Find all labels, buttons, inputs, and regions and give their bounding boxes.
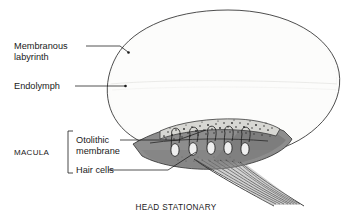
- label-macula: MACULA: [14, 148, 50, 157]
- macula-diagram: Membranous labyrinth Endolymph MACULA Ot…: [0, 0, 352, 220]
- label-membranous-labyrinth-line1: Membranous: [14, 41, 68, 51]
- label-hair-cells: Hair cells: [76, 165, 114, 175]
- leader-dot-endolymph: [124, 85, 127, 88]
- label-membranous-labyrinth-line2: labyrinth: [14, 52, 49, 62]
- label-otolithic-membrane-line1: Otolithic: [76, 135, 110, 145]
- label-otolithic-membrane-line2: membrane: [76, 146, 120, 156]
- leader-dot-membranous-labyrinth: [127, 51, 130, 54]
- label-endolymph: Endolymph: [14, 81, 60, 91]
- figure-caption: HEAD STATIONARY: [135, 203, 216, 212]
